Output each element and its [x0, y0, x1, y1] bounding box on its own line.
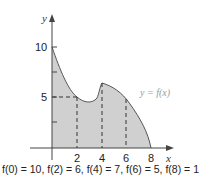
- x-axis-arrow-icon: [166, 145, 174, 151]
- y-tick-label-5: 5: [41, 91, 47, 103]
- function-values-caption: f(0) = 10, f(2) = 6, f(4) = 7, f(6) = 5,…: [0, 163, 201, 175]
- area-chart: y x 10 5 2 4 6 8 y = f(x): [0, 0, 201, 183]
- curve-label: y = f(x): [139, 87, 171, 99]
- y-tick-label-10: 10: [35, 41, 47, 53]
- y-axis-arrow-icon: [49, 14, 55, 22]
- y-axis-label: y: [41, 12, 47, 24]
